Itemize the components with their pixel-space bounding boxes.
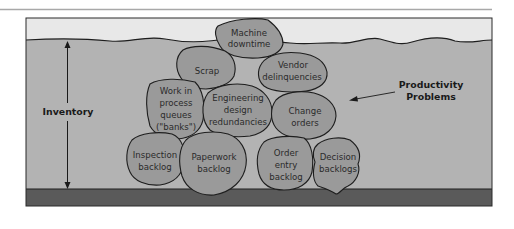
rock-label: delinquencies — [262, 72, 322, 82]
rock-label: Scrap — [195, 66, 219, 76]
rock-vendor-delinquencies: Vendor delinquencies — [258, 52, 327, 91]
rock-label: orders — [291, 118, 319, 128]
problems-label: Problems — [406, 91, 456, 102]
rock-label: redundancies — [209, 117, 268, 127]
rock-label: Work in — [160, 86, 192, 96]
rock-label: process — [159, 98, 193, 108]
rock-label: Change — [289, 106, 322, 116]
ground-area — [26, 189, 492, 206]
rock-label: backlog — [197, 164, 231, 174]
rock-label: Vendor — [278, 60, 309, 70]
rock-label: Paperwork — [191, 152, 236, 162]
productivity-label: Productivity — [399, 79, 464, 90]
rock-label: downtime — [228, 39, 271, 49]
rock-label: Machine — [231, 28, 267, 38]
rock-change-orders: Change orders — [272, 92, 337, 139]
rock-label: entry — [275, 160, 298, 170]
rock-inspection-backlog: Inspection backlog — [127, 133, 185, 185]
rock-label: Decision — [320, 152, 357, 162]
inventory-label: Inventory — [43, 106, 94, 117]
rock-engineering-design: Engineering design redundancies — [203, 84, 272, 137]
inventory-rocks-diagram: Machine downtime Scrap Vendor delinquenc… — [0, 0, 514, 229]
rock-label: Engineering — [212, 93, 264, 103]
rock-label: design — [224, 105, 253, 115]
rock-label: backlog — [269, 172, 303, 182]
rock-order-entry-backlog: Order entry backlog — [257, 136, 312, 190]
rock-label: backlog — [138, 162, 172, 172]
rock-label: ("banks") — [156, 122, 196, 132]
rock-label: queues — [160, 110, 192, 120]
rock-label: backlogs — [319, 164, 358, 174]
rock-work-in-process: Work in process queues ("banks") — [147, 79, 204, 139]
rock-label: Inspection — [133, 150, 177, 160]
rock-label: Order — [274, 148, 299, 158]
